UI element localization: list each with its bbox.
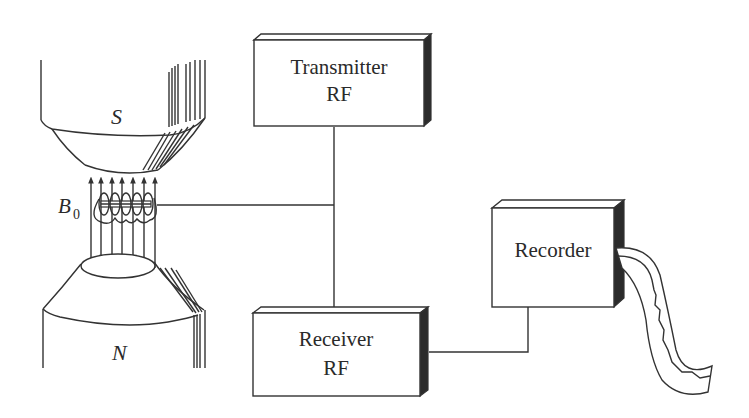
- recorder-label: Recorder: [515, 238, 592, 262]
- svg-text:0: 0: [73, 207, 80, 222]
- transmitter-block: Transmitter RF: [254, 34, 431, 126]
- north-pole-label: N: [111, 340, 128, 365]
- north-pole-magnet: N: [43, 254, 205, 368]
- magnet-shading: [169, 60, 200, 127]
- transmitter-label: Transmitter: [290, 55, 387, 79]
- transmitter-sublabel: RF: [326, 82, 352, 106]
- receiver-sublabel: RF: [323, 356, 349, 380]
- receiver-recorder-wire: [429, 307, 528, 352]
- nmr-diagram: S B 0: [0, 0, 749, 418]
- south-pole-magnet: S: [41, 60, 205, 173]
- svg-text:B: B: [58, 194, 71, 218]
- recorder-paper-strip: [616, 248, 712, 395]
- cone-shading: [160, 268, 202, 368]
- south-pole-label: S: [111, 104, 122, 129]
- receiver-block: Receiver RF: [253, 307, 428, 396]
- receiver-label: Receiver: [299, 327, 374, 351]
- rf-coil: [94, 193, 156, 223]
- recorder-block: Recorder: [492, 200, 624, 307]
- field-label: B 0: [58, 194, 80, 222]
- cone-shading: [143, 125, 194, 170]
